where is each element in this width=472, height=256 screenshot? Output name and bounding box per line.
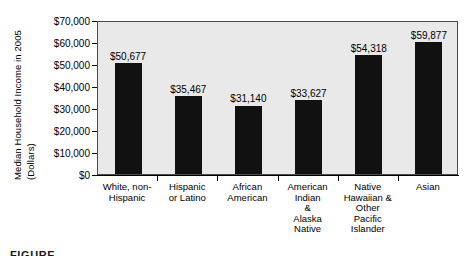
y-axis-tick-label: $70,000 (54, 16, 90, 27)
bars-container: $50,677$35,467$31,140$33,627$54,318$59,8… (98, 22, 457, 174)
x-axis-category-label: Asian (416, 182, 440, 193)
x-axis-category-label: Hispanicor Latino (169, 182, 206, 203)
x-axis-tick-mark (157, 175, 158, 181)
bar (295, 100, 322, 174)
x-axis-tick-mark (217, 175, 218, 181)
x-axis-category-label-line: Asian (416, 182, 440, 193)
figure-caption: FIGURE (10, 249, 55, 256)
x-axis-line (92, 175, 459, 176)
y-axis-tick-label: $60,000 (54, 38, 90, 49)
y-axis-tick-label: $50,000 (54, 60, 90, 71)
bar (175, 96, 202, 174)
x-axis-category-label-line: American (288, 182, 328, 193)
x-axis-category-label: NativeHawaiian &OtherPacificIslander (344, 182, 392, 235)
x-axis-category-label-line: & (288, 203, 328, 214)
bar (115, 63, 142, 174)
y-axis-tick-mark (92, 153, 97, 154)
x-axis-category-label: White, non-Hispanic (103, 182, 152, 203)
bar-value-label: $35,467 (170, 84, 206, 95)
x-axis-category-label-line: Native (288, 224, 328, 235)
y-axis-tick-label: $0 (79, 170, 90, 181)
y-axis-tick-label: $40,000 (54, 82, 90, 93)
x-axis-category-label: AfricanAmerican (227, 182, 267, 203)
bar (235, 106, 262, 175)
x-axis-category-label-line: American (227, 193, 267, 204)
y-axis-tick-mark (92, 87, 97, 88)
y-axis-tick-label: $20,000 (54, 126, 90, 137)
y-axis-tick-label: $30,000 (54, 104, 90, 115)
bar (355, 55, 382, 174)
x-axis-tick-mark (278, 175, 279, 181)
plot-area: $50,677$35,467$31,140$33,627$54,318$59,8… (97, 21, 458, 175)
y-axis-tick-mark (92, 43, 97, 44)
figure-bar-chart-median-household-income: Median Household Income in 2005 (Dollars… (0, 0, 472, 256)
bar-value-label: $50,677 (110, 51, 146, 62)
x-axis-category-label-line: Other (344, 203, 392, 214)
x-axis-category-label-line: Hispanic (169, 182, 206, 193)
y-axis-tick-label: $10,000 (54, 148, 90, 159)
x-axis-tick-mark (338, 175, 339, 181)
bar-value-label: $54,318 (351, 43, 387, 54)
y-axis-tick-mark (92, 65, 97, 66)
y-axis-tick-mark (92, 109, 97, 110)
y-axis-tick-mark (92, 175, 97, 176)
bar-value-label: $33,627 (291, 88, 327, 99)
bar (415, 42, 442, 174)
x-axis-category-label-line: African (227, 182, 267, 193)
bar-value-label: $31,140 (230, 93, 266, 104)
y-axis-tick-labels: $0$10,000$20,000$30,000$40,000$50,000$60… (22, 14, 90, 184)
bar-value-label: $59,877 (411, 30, 447, 41)
x-axis-category-label: AmericanIndian&AlaskaNative (288, 182, 328, 235)
x-axis-category-label-line: White, non- (103, 182, 152, 193)
x-axis-category-label-line: or Latino (169, 193, 206, 204)
x-axis-tick-mark (398, 175, 399, 181)
y-axis-tick-mark (92, 21, 97, 22)
x-axis-category-label-line: Islander (344, 224, 392, 235)
y-axis-tick-mark (92, 131, 97, 132)
x-axis-category-label-line: Hispanic (103, 193, 152, 204)
x-axis-category-label-line: Native (344, 182, 392, 193)
